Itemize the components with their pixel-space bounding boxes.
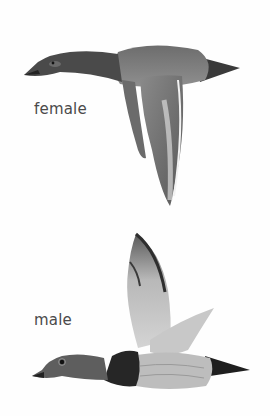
- illustration-canvas: female male: [0, 0, 270, 416]
- male-duck-illustration: [0, 0, 270, 416]
- female-label: female: [34, 100, 87, 118]
- male-label: male: [34, 311, 72, 329]
